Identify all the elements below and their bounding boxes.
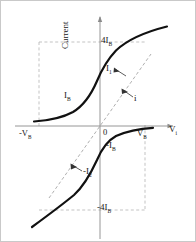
lower-transfer-curve	[32, 128, 153, 227]
tick-label-negative-4ib: -4IB	[97, 203, 111, 214]
annotation-arrows	[71, 68, 134, 172]
tick-label-positive-vb: VB	[137, 129, 147, 140]
origin-label: 0	[103, 128, 107, 137]
transfer-characteristic-figure: Current Vi 4IB -4IB VB -VB 0 I1 IB i -IB…	[0, 0, 196, 242]
tick-label-negative-vb: -VB	[19, 129, 32, 140]
annotation-negative-ib: -IB	[106, 141, 116, 152]
x-axis-title: Vi	[169, 125, 177, 136]
annotation-ib: IB	[64, 91, 71, 102]
annotation-i1: I1	[106, 64, 112, 75]
arrow-head-mi2	[71, 164, 78, 170]
y-axis-arrow	[98, 16, 102, 22]
tick-label-positive-4ib: 4IB	[101, 36, 112, 47]
annotation-negative-i2: -I2	[83, 167, 92, 178]
annotation-i: i	[134, 94, 137, 103]
y-axis-title: Current	[61, 22, 70, 50]
